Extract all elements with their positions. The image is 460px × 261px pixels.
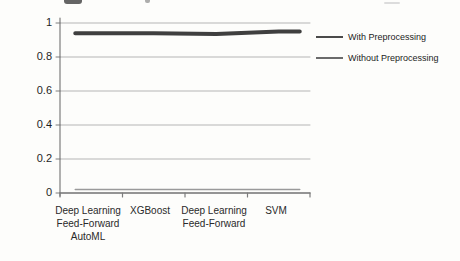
y-axis-tick-label: 0.6	[12, 84, 52, 96]
y-axis-tick-label: 0.2	[12, 152, 52, 164]
legend-label: Without Preprocessing	[348, 53, 439, 63]
y-axis-tick-label: 0.4	[12, 118, 52, 130]
legend: With Preprocessing Without Preprocessing	[316, 32, 439, 74]
legend-label: With Preprocessing	[348, 32, 426, 42]
y-axis-tick-label: 0.8	[12, 50, 52, 62]
y-axis-tick-label: 1	[12, 16, 52, 28]
legend-item-without-preprocessing: Without Preprocessing	[316, 53, 439, 63]
y-axis-tick-label: 0	[12, 186, 52, 198]
x-axis-category-label: SVM	[231, 204, 321, 217]
legend-item-with-preprocessing: With Preprocessing	[316, 32, 439, 42]
line-swatch-icon	[316, 57, 343, 59]
line-chart-figure: 1 0.8 0.6 0.4 0.2 0 Deep Learning Feed-F…	[0, 0, 460, 261]
line-swatch-icon	[316, 36, 343, 38]
